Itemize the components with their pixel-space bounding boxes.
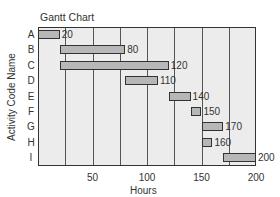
- bar-value-label: 150: [204, 106, 221, 117]
- y-tick-label: A: [26, 29, 36, 40]
- bar-value-label: 120: [171, 60, 188, 71]
- gantt-bar: [125, 76, 158, 85]
- chart-title: Gantt Chart: [40, 11, 94, 23]
- y-tick-label: H: [26, 137, 36, 148]
- bar-value-label: 200: [258, 152, 275, 163]
- bar-value-label: 160: [214, 137, 231, 148]
- y-tick-label: D: [26, 75, 36, 86]
- y-tick-label: B: [26, 44, 36, 55]
- gantt-bar: [202, 122, 224, 131]
- gantt-bar: [169, 92, 191, 101]
- bar-value-label: 140: [193, 91, 210, 102]
- x-tick-label: 100: [132, 172, 162, 183]
- y-tick-label: E: [26, 91, 36, 102]
- bar-value-label: 80: [127, 44, 138, 55]
- x-tick-label: 200: [241, 172, 271, 183]
- gantt-bar: [223, 153, 256, 162]
- bar-value-label: 170: [225, 121, 242, 132]
- gantt-bar: [202, 138, 213, 147]
- x-tick-label: 150: [187, 172, 217, 183]
- bar-value-label: 110: [160, 75, 176, 86]
- y-axis-label: Activity Code Name: [6, 53, 17, 141]
- x-tick-label: 50: [78, 172, 108, 183]
- y-tick-label: C: [26, 60, 36, 71]
- gantt-bar: [191, 107, 202, 116]
- x-axis-label: Hours: [130, 185, 157, 196]
- y-tick-label: I: [26, 152, 36, 163]
- y-tick-label: F: [26, 106, 36, 117]
- gantt-bar: [38, 30, 60, 39]
- bar-value-label: 20: [62, 29, 73, 40]
- gantt-bar: [60, 45, 125, 54]
- y-tick-label: G: [26, 121, 36, 132]
- gridline: [147, 28, 148, 165]
- gantt-bar: [60, 61, 169, 70]
